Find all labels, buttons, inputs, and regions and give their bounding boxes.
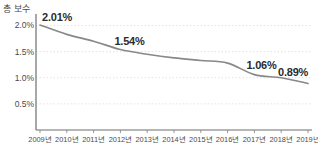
axis-lines (0, 0, 318, 155)
data-point-label: 1.54% (114, 35, 144, 47)
data-point-label: 0.89% (278, 66, 308, 78)
data-point-label: 2.01% (42, 11, 72, 23)
line-chart: 총 보수 2.0%1.5%1.0%0.5% 2009년2010년2011년201… (0, 0, 318, 155)
data-point-label: 1.06% (246, 59, 276, 71)
